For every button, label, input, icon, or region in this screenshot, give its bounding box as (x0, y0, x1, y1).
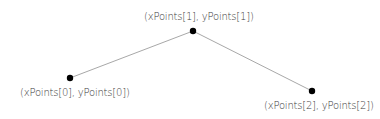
polyline-diagram: (xPoints[0], yPoints[0]) (xPoints[1], yP… (0, 0, 380, 119)
point-2-label: (xPoints[2], yPoints[2]) (264, 100, 374, 112)
point-1-marker (190, 28, 196, 34)
connecting-polyline (70, 31, 312, 91)
point-0-marker (67, 75, 73, 81)
point-0-label: (xPoints[0], yPoints[0]) (20, 87, 130, 99)
point-2-marker (309, 88, 315, 94)
point-1-label: (xPoints[1], yPoints[1]) (144, 11, 254, 23)
